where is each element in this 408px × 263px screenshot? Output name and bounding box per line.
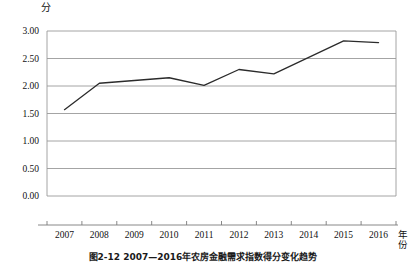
x-axis-unit-label: 年份 <box>398 230 408 250</box>
y-axis-tick-label: 1.50 <box>5 109 39 119</box>
y-axis-tick-label: 0.50 <box>5 164 39 174</box>
x-axis-tick-label: 2010 <box>149 230 189 240</box>
data-series-line <box>64 41 378 110</box>
figure-caption: 图2-12 2007—2016年农房金融需求指数得分变化趋势 <box>0 250 406 263</box>
y-axis-tick-label: 3.00 <box>5 26 39 36</box>
y-axis-unit-label: 分 <box>41 2 51 13</box>
x-axis-tick-label: 2008 <box>79 230 119 240</box>
y-axis-tick-label: 1.00 <box>5 136 39 146</box>
y-axis-tick-label: 0.00 <box>5 191 39 201</box>
y-axis-tick-label: 2.00 <box>5 81 39 91</box>
x-axis-tick-label: 2016 <box>359 230 399 240</box>
x-axis-tick-label: 2013 <box>254 230 294 240</box>
y-axis-tick-label: 2.50 <box>5 54 39 64</box>
